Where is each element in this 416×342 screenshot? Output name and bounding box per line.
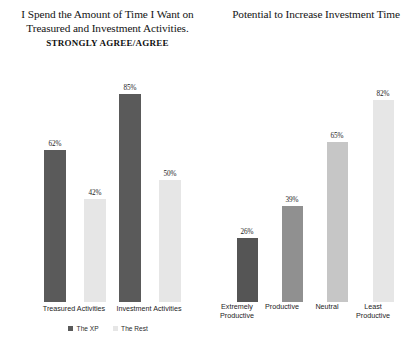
right-plot-area: 26% 39% 65% 82% [225, 50, 410, 302]
x-axis-label-line-2: Productive [343, 312, 403, 321]
right-chart-panel: Potential to Increase Investment Time 26… [215, 0, 416, 342]
bar-value-extremely-productive: 26% [227, 228, 267, 236]
bar-extremely-productive [237, 238, 258, 302]
bar-investment-the-rest [159, 180, 181, 302]
bar-investment-the-xp [119, 94, 141, 302]
legend-swatch-the-xp [68, 326, 73, 331]
legend-label-the-rest: The Rest [121, 325, 148, 332]
bar-value-investment-the-xp: 85% [110, 84, 150, 92]
right-chart-title: Potential to Increase Investment Time [225, 8, 407, 22]
chart-canvas: I Spend the Amount of Time I Want on Tre… [0, 0, 416, 342]
legend-label-the-xp: The XP [77, 325, 99, 332]
bar-neutral [327, 142, 348, 302]
left-chart-title: I Spend the Amount of Time I Want on Tre… [4, 8, 211, 35]
left-chart-panel: I Spend the Amount of Time I Want on Tre… [0, 0, 215, 342]
x-axis-label-investment-activities: Investment Activities [89, 304, 209, 313]
bar-treasured-the-rest [84, 199, 106, 302]
legend-swatch-the-rest [113, 326, 118, 331]
bar-value-least-productive: 82% [363, 90, 403, 98]
left-chart-subtitle: STRONGLY AGREE/AGREE [4, 38, 211, 48]
bar-productive [282, 206, 303, 302]
legend-item-the-xp[interactable]: The XP [68, 325, 99, 332]
bar-value-productive: 39% [272, 196, 312, 204]
left-chart-legend: The XP The Rest [18, 325, 198, 332]
bar-value-treasured-the-rest: 42% [75, 189, 115, 197]
bar-least-productive [373, 100, 394, 302]
left-plot-area: 62% 42% 85% 50% [18, 56, 198, 302]
bar-value-treasured-the-xp: 62% [35, 140, 75, 148]
x-axis-label-line-2: Productive [207, 312, 267, 321]
x-axis-label-least-productive: Least Productive [343, 303, 403, 320]
bar-treasured-the-xp [44, 150, 66, 302]
legend-item-the-rest[interactable]: The Rest [113, 325, 148, 332]
bar-value-investment-the-rest: 50% [150, 170, 190, 178]
bar-value-neutral: 65% [317, 132, 357, 140]
